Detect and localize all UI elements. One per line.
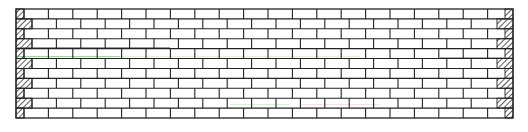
- hatch-left-row-2: [16, 29, 24, 39]
- hatch-right-row-1: [497, 19, 513, 29]
- hatch-right-row-0: [505, 9, 513, 19]
- hatch-left-row-8: [16, 88, 24, 98]
- hatch-left-row-6: [16, 68, 24, 78]
- hatch-left-row-7: [16, 78, 32, 88]
- hatch-right-row-2: [505, 29, 513, 39]
- hatch-left-row-9: [16, 98, 32, 108]
- hatch-right-row-5: [497, 59, 513, 69]
- hatch-left-row-1: [16, 19, 32, 29]
- mortar-joints: [16, 9, 513, 118]
- hatch-left-row-10: [16, 108, 24, 118]
- hatch-right-row-10: [505, 108, 513, 118]
- hatch-right-row-6: [505, 68, 513, 78]
- hatch-right-row-8: [505, 88, 513, 98]
- scan-artifact-lines: [17, 48, 512, 105]
- hatch-left-row-0: [16, 9, 24, 19]
- brick-wall-diagram: [0, 0, 528, 132]
- wall-outline: [16, 9, 513, 118]
- hatch-left-row-4: [16, 49, 24, 59]
- hatch-right-row-7: [497, 78, 513, 88]
- hatch-right-row-3: [497, 39, 513, 49]
- hatch-left-row-5: [16, 59, 32, 69]
- hatch-right-row-9: [497, 98, 513, 108]
- hatched-end-pieces: [16, 9, 513, 118]
